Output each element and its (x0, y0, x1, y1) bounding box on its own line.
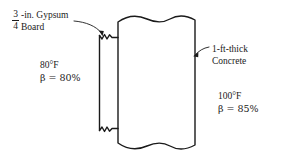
concrete-layer-outline (118, 16, 195, 149)
gypsum-callout-line1: -in. Gypsum (21, 10, 69, 22)
gypsum-callout-line2: Board (21, 22, 69, 34)
gypsum-callout-label: 3 4 -in. Gypsum Board (12, 10, 69, 33)
wall-cross-section-diagram: 3 4 -in. Gypsum Board 1-ft-thick Concret… (0, 0, 284, 165)
concrete-callout-line1: 1-ft-thick (212, 44, 248, 56)
fraction-denominator: 4 (12, 21, 19, 31)
gypsum-thickness-fraction: 3 4 (12, 9, 19, 31)
right-beta-value: β = 85% (218, 103, 259, 115)
gypsum-leader-line (74, 21, 102, 33)
gypsum-bottom-break-line (100, 127, 119, 132)
fraction-numerator: 3 (12, 9, 19, 19)
right-temperature-value: 100°F (218, 91, 259, 103)
left-beta-value: β = 80% (40, 72, 81, 84)
gypsum-callout-text: -in. Gypsum Board (21, 10, 69, 33)
left-temperature-value: 80°F (40, 60, 81, 72)
concrete-callout-label: 1-ft-thick Concrete (212, 44, 248, 67)
concrete-callout-line2: Concrete (212, 56, 248, 68)
left-boundary-conditions: 80°F β = 80% (40, 60, 81, 83)
right-boundary-conditions: 100°F β = 85% (218, 91, 259, 114)
